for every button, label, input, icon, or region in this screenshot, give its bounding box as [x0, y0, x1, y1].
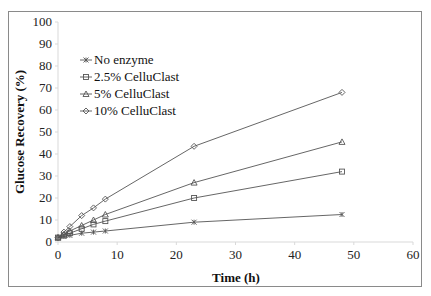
y-tick-label: 90: [39, 36, 52, 51]
legend: No enzyme2.5% CelluClast5% CelluClast10%…: [80, 52, 180, 118]
y-tick-label: 10: [39, 212, 52, 227]
legend-item: No enzyme: [80, 52, 154, 67]
legend-label: No enzyme: [94, 52, 154, 67]
y-tick-label: 60: [39, 102, 52, 117]
x-tick-label: 30: [229, 247, 242, 262]
legend-label: 10% CelluClast: [94, 103, 176, 118]
x-tick-label: 10: [111, 247, 124, 262]
x-tick-label: 40: [288, 247, 301, 262]
legend-item: 5% CelluClast: [80, 86, 170, 101]
legend-item: 10% CelluClast: [80, 103, 176, 118]
legend-item: 2.5% CelluClast: [80, 69, 180, 84]
y-tick-label: 100: [33, 14, 53, 29]
y-tick-label: 40: [39, 146, 52, 161]
x-tick-label: 50: [347, 247, 360, 262]
y-tick-label: 30: [39, 168, 52, 183]
x-axis-title: Time (h): [212, 270, 260, 285]
series-5-celluclast: [55, 139, 345, 240]
line-chart: 0102030405060708090100 0102030405060 Tim…: [0, 0, 431, 296]
series-2-5-celluclast: [56, 169, 345, 240]
x-tick-label: 0: [55, 247, 62, 262]
legend-label: 2.5% CelluClast: [94, 69, 180, 84]
legend-label: 5% CelluClast: [94, 86, 170, 101]
y-tick-label: 50: [39, 124, 52, 139]
series-no-enzyme: [56, 212, 345, 240]
y-axis-title: Glucose Recovery (%): [12, 70, 27, 194]
y-tick-label: 70: [39, 80, 52, 95]
y-tick-label: 0: [46, 234, 53, 249]
y-tick-label: 80: [39, 58, 52, 73]
y-tick-label: 20: [39, 190, 52, 205]
x-tick-labels: 0102030405060: [55, 247, 420, 262]
y-tick-labels: 0102030405060708090100: [33, 14, 53, 249]
x-tick-label: 20: [170, 247, 183, 262]
x-tick-label: 60: [407, 247, 420, 262]
